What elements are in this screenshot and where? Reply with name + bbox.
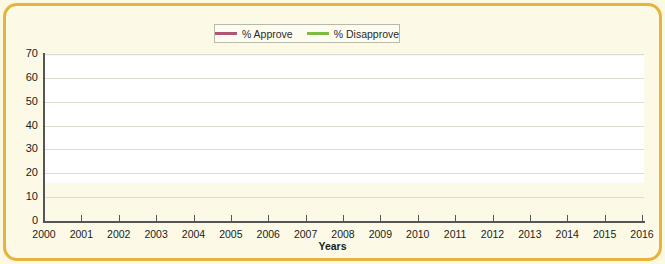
gridline xyxy=(45,102,644,103)
x-axis-tick-label: 2007 xyxy=(294,228,317,240)
x-axis-tick-label: 2015 xyxy=(593,228,616,240)
x-axis-title: Years xyxy=(0,240,665,252)
x-axis-tick-label: 2016 xyxy=(630,228,653,240)
x-axis-tick xyxy=(605,215,606,222)
x-axis-tick xyxy=(81,215,82,222)
chart-frame: % Approve % Disapprove 010203040506070 2… xyxy=(0,0,665,264)
x-axis-tick-label: 2000 xyxy=(32,228,55,240)
x-axis-tick-label: 2005 xyxy=(219,228,242,240)
chart-legend: % Approve % Disapprove xyxy=(214,24,400,43)
x-axis-tick-label: 2010 xyxy=(406,228,429,240)
x-axis-tick xyxy=(455,215,456,222)
legend-swatch-approve xyxy=(215,32,237,35)
legend-item-approve: % Approve xyxy=(215,28,293,40)
x-axis-tick xyxy=(44,215,45,222)
x-axis-tick xyxy=(306,215,307,222)
x-axis-tick-label: 2004 xyxy=(182,228,205,240)
y-axis-tick-label: 60 xyxy=(8,71,38,83)
x-axis-tick-label: 2009 xyxy=(369,228,392,240)
x-axis-tick xyxy=(156,215,157,222)
y-axis-tick-label: 40 xyxy=(8,119,38,131)
gridline xyxy=(45,149,644,150)
y-axis-tick-label: 70 xyxy=(8,47,38,59)
x-axis-tick xyxy=(418,215,419,222)
x-axis-tick-label: 2014 xyxy=(556,228,579,240)
x-axis-tick xyxy=(530,215,531,222)
y-axis-tick-label: 0 xyxy=(8,214,38,226)
y-axis-tick-label: 50 xyxy=(8,95,38,107)
x-axis-tick-label: 2001 xyxy=(70,228,93,240)
x-axis-tick-label: 2002 xyxy=(107,228,130,240)
gridline xyxy=(45,78,644,79)
x-axis-tick xyxy=(119,215,120,222)
x-axis-tick-label: 2008 xyxy=(331,228,354,240)
gridline xyxy=(45,197,644,198)
legend-item-disapprove: % Disapprove xyxy=(307,28,399,40)
y-axis-line xyxy=(43,53,45,223)
x-axis-tick-label: 2013 xyxy=(518,228,541,240)
x-axis-tick xyxy=(343,215,344,222)
x-axis-tick xyxy=(493,215,494,222)
x-axis-tick-label: 2003 xyxy=(144,228,167,240)
x-axis-tick xyxy=(642,215,643,222)
y-axis-tick-label: 30 xyxy=(8,142,38,154)
x-axis-tick xyxy=(268,215,269,222)
x-axis-tick xyxy=(194,215,195,222)
y-axis-tick-label: 10 xyxy=(8,190,38,202)
plot-wrapper: 010203040506070 200020012002200320042005… xyxy=(8,48,656,223)
x-axis-tick-label: 2011 xyxy=(444,228,467,240)
x-axis-tick-label: 2006 xyxy=(257,228,280,240)
plot-area-lower-tint xyxy=(44,183,644,223)
y-axis-tick-label: 20 xyxy=(8,166,38,178)
x-axis-tick xyxy=(231,215,232,222)
x-axis-line xyxy=(43,221,645,223)
x-axis-tick xyxy=(380,215,381,222)
gridline xyxy=(45,54,644,55)
legend-label-disapprove: % Disapprove xyxy=(334,28,399,40)
x-axis-tick xyxy=(567,215,568,222)
legend-label-approve: % Approve xyxy=(242,28,293,40)
gridline xyxy=(45,173,644,174)
x-axis-tick-label: 2012 xyxy=(481,228,504,240)
legend-swatch-disapprove xyxy=(307,32,329,35)
gridline xyxy=(45,126,644,127)
